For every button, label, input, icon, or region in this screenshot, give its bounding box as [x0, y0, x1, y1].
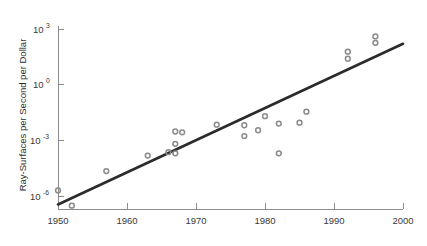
data-point [263, 114, 268, 119]
data-point [214, 122, 219, 127]
x-axis-ticks [58, 203, 403, 209]
data-point [256, 128, 261, 133]
y-tick-mantissa: 10 [33, 79, 44, 90]
y-tick-exponent: -3 [43, 133, 49, 140]
y-axis-ticks [58, 29, 64, 196]
data-point [173, 151, 178, 156]
x-tick-label: 1960 [116, 215, 137, 226]
data-point [304, 109, 309, 114]
x-tick-labels: 195019601970198019902000 [47, 215, 413, 226]
y-tick-label: 10 3 [33, 22, 50, 35]
y-tick-exponent: 0 [46, 77, 50, 84]
y-tick-exponent: 3 [46, 22, 50, 29]
y-axis-title: Ray-Surfaces per Second per Dollar [17, 39, 28, 192]
data-point [145, 153, 150, 158]
y-tick-labels: 10 3 10 0 10 -3 10 -6 [30, 22, 50, 202]
y-tick-exponent: -6 [43, 189, 49, 196]
data-point [104, 169, 109, 174]
x-tick-label: 1980 [254, 215, 275, 226]
y-tick-label: 10 -6 [30, 189, 49, 202]
data-point [345, 49, 350, 54]
data-point [373, 34, 378, 39]
y-tick-mantissa: 10 [30, 191, 41, 202]
y-tick-mantissa: 10 [30, 135, 41, 146]
data-point [345, 56, 350, 61]
chart-figure: Ray-Surfaces per Second per Dollar 10 3 … [0, 0, 427, 246]
y-tick-mantissa: 10 [33, 24, 44, 35]
data-point [173, 141, 178, 146]
data-point [242, 134, 247, 139]
data-point [276, 121, 281, 126]
x-tick-label: 2000 [392, 215, 413, 226]
x-tick-label: 1990 [323, 215, 344, 226]
data-point [276, 151, 281, 156]
scatter-plot: Ray-Surfaces per Second per Dollar 10 3 … [0, 0, 427, 246]
data-point [69, 203, 74, 208]
data-point [173, 129, 178, 134]
data-point [373, 40, 378, 45]
x-tick-label: 1970 [185, 215, 206, 226]
trend-line [58, 44, 403, 205]
data-point [297, 120, 302, 125]
y-tick-label: 10 0 [33, 77, 50, 90]
data-point [180, 130, 185, 135]
y-tick-label: 10 -3 [30, 133, 49, 146]
x-tick-label: 1950 [47, 215, 68, 226]
data-point [242, 123, 247, 128]
